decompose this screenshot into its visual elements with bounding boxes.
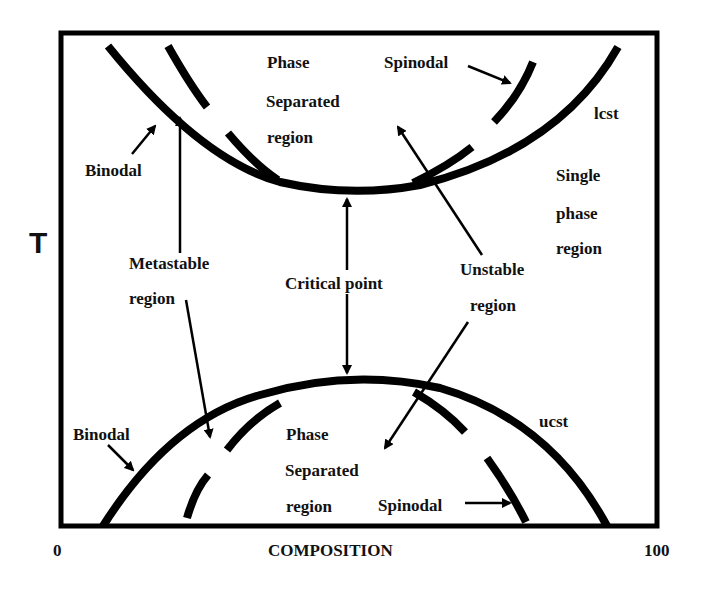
lower-binodal-label: Binodal <box>73 425 130 444</box>
upper-binodal-arrow <box>132 126 155 154</box>
single-phase-label: Single <box>556 166 601 185</box>
metastable-arrow-down <box>186 300 210 437</box>
upper-spinodal-arrow <box>468 66 510 83</box>
lower-spinodal-dash <box>227 403 280 450</box>
upper-binodal-label: Binodal <box>85 161 142 180</box>
lower-spinodal-label: Spinodal <box>378 496 443 515</box>
lower-region-label: Separated <box>285 461 359 480</box>
lower-spinodal-dash <box>487 458 526 522</box>
lower-region-label: region <box>286 497 333 516</box>
unstable-label: region <box>470 296 517 315</box>
critical-point-label: Critical point <box>285 274 383 293</box>
x-min-label: 0 <box>53 541 62 560</box>
phase-diagram: T COMPOSITION 0 100 Phase Separated regi… <box>0 0 704 589</box>
lower-spinodal-dash <box>414 392 465 432</box>
lower-binodal-arrow <box>108 445 133 470</box>
metastable-label: region <box>129 289 176 308</box>
lower-spinodal-dash <box>187 475 208 518</box>
upper-region-label: region <box>267 128 314 147</box>
upper-spinodal-dash <box>494 62 533 122</box>
single-phase-label: region <box>556 239 603 258</box>
upper-region-label: Phase <box>267 53 310 72</box>
lcst-label: lcst <box>594 104 619 123</box>
upper-spinodal-dash <box>168 46 207 107</box>
lower-region-label: Phase <box>286 425 329 444</box>
upper-region-label: Separated <box>266 92 340 111</box>
ucst-label: ucst <box>539 412 569 431</box>
upper-spinodal-label: Spinodal <box>384 53 449 72</box>
unstable-label: Unstable <box>460 260 525 279</box>
single-phase-label: phase <box>556 204 598 223</box>
y-axis-label: T <box>29 226 47 259</box>
x-max-label: 100 <box>644 541 670 560</box>
lower-binodal-curve <box>103 379 607 526</box>
metastable-label: Metastable <box>129 254 210 273</box>
x-axis-label: COMPOSITION <box>268 541 393 560</box>
